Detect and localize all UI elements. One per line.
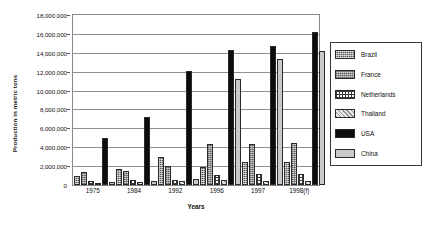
x-axis-tick-labels: 197519841992199619971998(f) bbox=[72, 187, 320, 199]
y-axis-tick-mark bbox=[67, 91, 70, 92]
bar-brazil-1975 bbox=[74, 176, 80, 185]
chart-root: Production in metric tons 2,000,0004,000… bbox=[0, 0, 430, 238]
bar-usa-1975 bbox=[102, 138, 108, 185]
y-axis-tick-label: 16,000,000 bbox=[37, 30, 67, 37]
bar-usa-1992 bbox=[186, 71, 192, 185]
legend-item-china[interactable]: China bbox=[335, 147, 417, 160]
bar-group bbox=[157, 15, 199, 185]
legend-item-usa[interactable]: USA bbox=[335, 127, 417, 140]
legend-swatch-france bbox=[335, 70, 355, 79]
bar-thailand-1997 bbox=[263, 181, 269, 185]
bar-brazil-1996 bbox=[200, 167, 206, 185]
bar-brazil-1998f bbox=[284, 162, 290, 185]
bar-france-1996 bbox=[207, 144, 213, 185]
y-axis-tick-label: 12,000,000 bbox=[37, 68, 67, 75]
legend-swatch-china bbox=[335, 149, 355, 158]
y-axis-tick-mark bbox=[67, 109, 70, 110]
legend-item-thailand[interactable]: Thailand bbox=[335, 107, 417, 120]
bar-china-1996 bbox=[235, 79, 241, 185]
legend-swatch-brazil bbox=[335, 50, 355, 59]
bar-group bbox=[283, 15, 325, 185]
bar-group bbox=[115, 15, 157, 185]
y-axis-tick-mark bbox=[67, 53, 70, 54]
y-axis-tick-label: 4,000,000 bbox=[40, 144, 67, 151]
bar-thailand-1984 bbox=[137, 182, 143, 185]
bar-brazil-1992 bbox=[158, 157, 164, 185]
bar-china-1998f bbox=[319, 51, 325, 185]
bar-netherlands-1984 bbox=[130, 180, 136, 185]
y-axis-tick-label-zero: 0 bbox=[64, 182, 67, 189]
bar-group bbox=[241, 15, 283, 185]
bar-netherlands-1996 bbox=[214, 175, 220, 185]
legend-swatch-usa bbox=[335, 129, 355, 138]
x-axis-tick-label: 1997 bbox=[237, 187, 278, 199]
bar-group bbox=[199, 15, 241, 185]
bar-usa-1984 bbox=[144, 117, 150, 185]
bar-netherlands-1992 bbox=[172, 180, 178, 185]
bar-groups bbox=[73, 15, 319, 185]
legend-label: Netherlands bbox=[361, 91, 395, 98]
x-axis-tick-label: 1998(f) bbox=[279, 187, 320, 199]
y-axis-tick-mark bbox=[67, 147, 70, 148]
legend-swatch-thailand bbox=[335, 109, 355, 118]
y-axis-tick-label: 14,000,000 bbox=[37, 49, 67, 56]
bar-netherlands-1975 bbox=[88, 181, 94, 185]
bar-france-1975 bbox=[81, 172, 87, 185]
bar-china-1997 bbox=[277, 59, 283, 185]
bar-thailand-1975 bbox=[95, 183, 101, 185]
y-axis-tick-mark bbox=[67, 72, 70, 73]
bar-china-1984 bbox=[151, 181, 157, 185]
x-axis-tick-label: 1992 bbox=[155, 187, 196, 199]
bar-netherlands-1997 bbox=[256, 174, 262, 185]
y-axis-tick-labels: 2,000,0004,000,0006,000,0008,000,00010,0… bbox=[18, 14, 70, 186]
legend-item-netherlands[interactable]: Netherlands bbox=[335, 88, 417, 101]
legend-label: Brazil bbox=[361, 51, 377, 58]
y-axis-title: Production in metric tons bbox=[11, 49, 18, 179]
bar-thailand-1992 bbox=[179, 181, 185, 185]
x-axis-title: Years bbox=[72, 203, 320, 210]
legend-label: USA bbox=[361, 130, 374, 137]
plot-area bbox=[72, 14, 320, 186]
legend-label: China bbox=[361, 150, 378, 157]
x-axis-tick-label: 1975 bbox=[72, 187, 113, 199]
bar-usa-1996 bbox=[228, 50, 234, 185]
bar-group bbox=[73, 15, 115, 185]
legend-label: France bbox=[361, 71, 381, 78]
bar-france-1998f bbox=[291, 143, 297, 186]
legend-swatch-netherlands bbox=[335, 90, 355, 99]
y-axis-tick-mark bbox=[67, 166, 70, 167]
legend-item-france[interactable]: France bbox=[335, 68, 417, 81]
bar-netherlands-1998f bbox=[298, 174, 304, 185]
x-axis-tick-label: 1984 bbox=[113, 187, 154, 199]
x-axis-tick-label: 1996 bbox=[196, 187, 237, 199]
legend: BrazilFranceNetherlandsThailandUSAChina bbox=[330, 42, 422, 166]
bar-thailand-1996 bbox=[221, 180, 227, 185]
bar-thailand-1998f bbox=[305, 181, 311, 185]
bar-france-1984 bbox=[123, 171, 129, 185]
bar-china-1992 bbox=[193, 179, 199, 185]
bar-brazil-1997 bbox=[242, 162, 248, 185]
bar-usa-1997 bbox=[270, 46, 276, 185]
legend-item-brazil[interactable]: Brazil bbox=[335, 48, 417, 61]
bar-china-1975 bbox=[109, 182, 115, 185]
y-axis-tick-mark bbox=[67, 34, 70, 35]
bar-brazil-1984 bbox=[116, 169, 122, 185]
y-axis-tick-mark bbox=[67, 128, 70, 129]
y-axis-tick-label: 2,000,000 bbox=[40, 163, 67, 170]
y-axis-tick-label: 18,000,000 bbox=[37, 12, 67, 19]
y-axis-tick-mark bbox=[67, 15, 70, 16]
legend-label: Thailand bbox=[361, 110, 386, 117]
bar-usa-1998f bbox=[312, 32, 318, 185]
y-axis-tick-label: 8,000,000 bbox=[40, 106, 67, 113]
bar-france-1997 bbox=[249, 144, 255, 185]
y-axis-tick-label: 10,000,000 bbox=[37, 87, 67, 94]
bar-france-1992 bbox=[165, 166, 171, 185]
y-axis-tick-label: 6,000,000 bbox=[40, 125, 67, 132]
